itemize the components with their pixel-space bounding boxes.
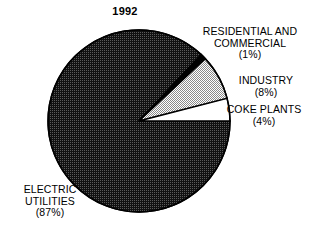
slice-label-line-1: INDUSTRY [218,75,314,87]
slice-label-line-1: ELECTRIC [4,184,96,196]
slice-label-industry: INDUSTRY (8%) [218,75,314,98]
slice-label-percent: (87%) [4,207,96,219]
slice-label-electric-utilities: ELECTRIC UTILITIES (87%) [4,184,96,219]
pie-chart: 1992 RESIDENTIAL AND COMMERCIAL (1%) [0,0,318,237]
slice-label-coke-plants: COKE PLANTS (4%) [214,104,314,127]
slice-label-percent: (8%) [218,87,314,99]
slice-label-percent: (4%) [214,116,314,128]
slice-label-line-1: COKE PLANTS [214,104,314,116]
slice-label-residential-commercial: RESIDENTIAL AND COMMERCIAL (1%) [186,26,314,61]
slice-label-line-1: RESIDENTIAL AND [186,26,314,38]
slice-label-percent: (1%) [186,49,314,61]
